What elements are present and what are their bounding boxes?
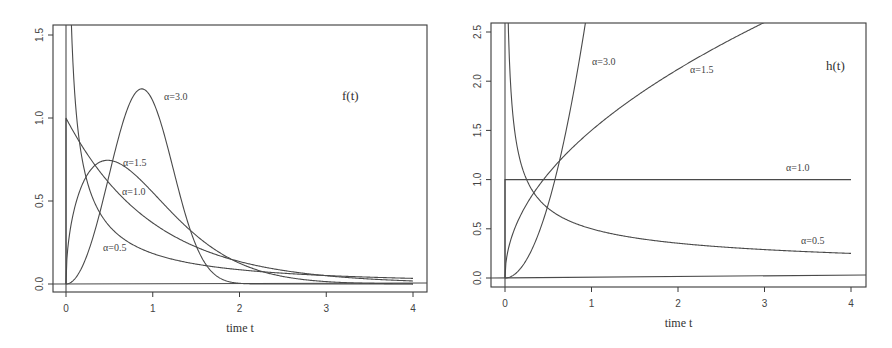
y-tick-label: 2.0 [472, 74, 483, 88]
x-axis-title: time t [226, 321, 254, 335]
x-tick-label: 2 [675, 298, 681, 309]
curve-label: α=3.0 [592, 56, 615, 67]
panel-label: h(t) [826, 58, 845, 73]
x-tick-label: 2 [237, 303, 243, 314]
x-tick-label: 3 [762, 298, 768, 309]
y-tick-label: 0.0 [34, 277, 45, 291]
y-tick-label: 2.5 [472, 25, 483, 39]
x-tick-label: 0 [502, 298, 508, 309]
curve-alpha-1 [505, 180, 851, 278]
curve-label: α=3.0 [164, 91, 187, 102]
curve-label: α=1.5 [690, 64, 713, 75]
x-tick-label: 4 [410, 303, 416, 314]
curve-label: α=1.5 [123, 157, 146, 168]
y-tick-label: 0.5 [472, 221, 483, 235]
panel-label: f(t) [342, 88, 359, 103]
density-plot: 012340.00.51.01.5time tα=3.0α=1.5α=1.0α=… [34, 0, 427, 335]
curve-label: α=1.0 [786, 162, 809, 173]
curve-alpha-3 [66, 89, 413, 284]
y-tick-label: 0.5 [34, 194, 45, 208]
x-axis-title: time t [665, 316, 693, 330]
x-tick-label: 1 [589, 298, 595, 309]
y-tick-label: 1.5 [34, 28, 45, 42]
y-tick-label: 1.5 [472, 123, 483, 137]
chart-canvas: 012340.00.51.01.5time tα=3.0α=1.5α=1.0α=… [0, 0, 892, 348]
curve-alpha-1 [66, 118, 413, 284]
curve-label: α=1.0 [122, 186, 145, 197]
curve-label: α=0.5 [103, 242, 126, 253]
curve-alpha-0-5 [505, 0, 851, 253]
hazard-plot: 012340.00.51.01.52.02.5time tα=3.0α=1.5α… [472, 0, 866, 330]
x-tick-label: 0 [63, 303, 69, 314]
plot-frame [491, 23, 866, 287]
y-tick-label: 1.0 [34, 111, 45, 125]
zero-baseline [491, 275, 866, 278]
y-tick-label: 1.0 [472, 172, 483, 186]
curve-alpha-1-5 [66, 160, 413, 284]
y-tick-label: 0.0 [472, 271, 483, 285]
curve-alpha-3 [505, 0, 851, 278]
curve-label: α=0.5 [801, 235, 824, 246]
x-tick-label: 1 [150, 303, 156, 314]
x-tick-label: 4 [848, 298, 854, 309]
curve-alpha-1-5 [505, 0, 851, 278]
x-tick-label: 3 [323, 303, 329, 314]
